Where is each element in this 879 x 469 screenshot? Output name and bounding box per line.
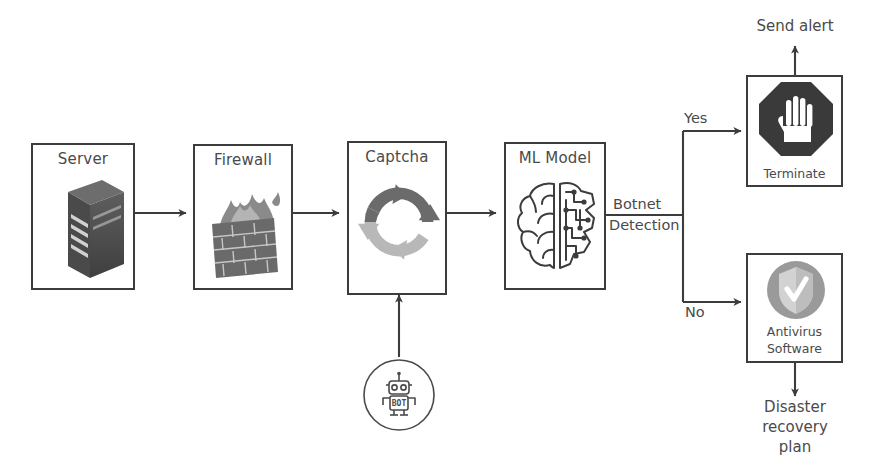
edge-label-botnet-line2: Detection <box>608 217 680 234</box>
bot-robot-circle-icon[interactable]: BOT <box>362 358 436 432</box>
node-captcha-label: Captcha <box>349 149 445 166</box>
flowchart-canvas: Server <box>0 0 879 469</box>
node-antivirus-caption-line2: Software <box>748 342 841 356</box>
node-server[interactable]: Server <box>31 143 135 290</box>
stop-hand-octagon-icon <box>757 80 835 158</box>
node-firewall[interactable]: Firewall <box>193 144 293 290</box>
node-firewall-label: Firewall <box>195 152 291 169</box>
brick-wall-flame-icon <box>204 180 288 280</box>
brain-circuit-icon <box>514 176 600 276</box>
edge-label-no: No <box>684 304 706 321</box>
label-disaster-line1: Disaster <box>745 399 845 416</box>
node-antivirus[interactable]: Antivirus Software <box>746 253 843 363</box>
node-antivirus-caption-line1: Antivirus <box>748 325 841 339</box>
node-terminate[interactable]: Terminate <box>746 75 843 187</box>
node-captcha[interactable]: Captcha <box>347 141 447 295</box>
label-send-alert: Send alert <box>735 18 855 35</box>
edge-label-botnet-line1: Botnet <box>612 196 662 213</box>
node-server-label: Server <box>33 151 133 168</box>
edge-label-yes: Yes <box>683 110 708 127</box>
node-ml-model[interactable]: ML Model <box>504 142 606 290</box>
bot-badge-text: BOT <box>392 399 407 408</box>
node-terminate-caption: Terminate <box>748 167 841 181</box>
server-rack-icon <box>44 178 128 282</box>
shield-check-icon <box>763 259 829 321</box>
recaptcha-arrows-icon <box>358 181 440 263</box>
label-disaster-line2: recovery <box>745 419 845 436</box>
label-disaster-line3: plan <box>745 439 845 456</box>
node-ml-model-label: ML Model <box>506 150 604 167</box>
